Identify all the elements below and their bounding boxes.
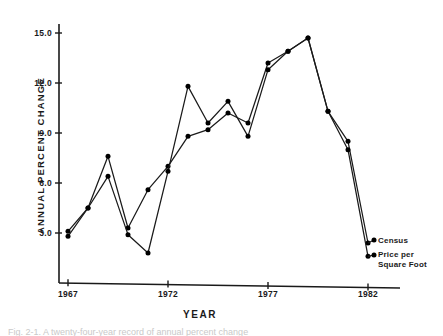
data-point-marker: Census 1974: 9.2 <box>206 127 211 132</box>
data-point-marker: Price per Square Foot 1976: 8.8 <box>246 134 251 139</box>
legend-marker <box>372 238 377 243</box>
legend-price-line-1: Price per <box>378 250 427 260</box>
data-point-marker: Census 1981: 8.5 <box>346 139 351 144</box>
series-line <box>68 38 368 256</box>
data-point-marker: Price per Square Foot 1970: 2.9 <box>126 232 131 237</box>
data-point-marker: Price per Square Foot 1978: 13.9 <box>286 49 291 54</box>
data-point-marker: Census 1973: 8.8 <box>186 134 191 139</box>
data-point-marker: Census 1969: 7.6 <box>106 154 111 159</box>
data-series-layer: Census 1967: 3.1Census 1968: 4.5Census 1… <box>66 36 371 259</box>
x-tick-label: 1967 <box>38 289 98 299</box>
data-point-marker: Price per Square Foot 1972: 6.7 <box>166 169 171 174</box>
data-point-marker: Census 1975: 10.2 <box>226 111 231 116</box>
legend-price-line-2: Square Foot <box>378 260 427 270</box>
x-tick-label: 1972 <box>138 289 198 299</box>
series-price-per-square-foot: Price per Square Foot 1967: 2.8Price per… <box>66 36 371 259</box>
x-tick-label: 1977 <box>238 289 298 299</box>
data-point-marker: Price per Square Foot 1977: 12.8 <box>266 67 271 72</box>
legend-marker <box>372 253 377 258</box>
y-axis-title: ANNUAL PERCENT CHANGE <box>35 41 46 271</box>
data-point-marker: Price per Square Foot 1967: 2.8 <box>66 234 71 239</box>
data-point-marker: Price per Square Foot 1975: 10.9 <box>226 99 231 104</box>
data-point-marker: Price per Square Foot 1971: 1.8 <box>146 251 151 256</box>
x-tick-label: 1982 <box>338 289 398 299</box>
data-point-marker: Price per Square Foot 1969: 6.4 <box>106 174 111 179</box>
data-point-marker: Price per Square Foot 1968: 4.5 <box>86 206 91 211</box>
series-census: Census 1967: 3.1Census 1968: 4.5Census 1… <box>66 36 371 246</box>
data-point-marker: Census 1977: 13.2 <box>266 61 271 66</box>
data-point-marker: Price per Square Foot 1979: 14.7 <box>306 36 311 41</box>
legend-label-price-per-square-foot: Price per Square Foot <box>378 250 427 270</box>
y-tick-label: 15.0 <box>0 28 52 38</box>
data-point-marker: Price per Square Foot 1981: 8 <box>346 147 351 152</box>
figure-container: Census 1967: 3.1Census 1968: 4.5Census 1… <box>0 0 443 336</box>
series-line <box>68 38 368 243</box>
data-point-marker: Price per Square Foot 1974: 9.6 <box>206 121 211 126</box>
legend-label-census: Census <box>378 236 408 246</box>
data-point-marker: Price per Square Foot 1973: 11.8 <box>186 84 191 89</box>
data-point-marker: Price per Square Foot 1980: 10.3 <box>326 109 331 114</box>
x-axis-title: YEAR <box>0 309 400 320</box>
data-point-marker: Census 1976: 9.6 <box>246 121 251 126</box>
line-chart-plot: Census 1967: 3.1Census 1968: 4.5Census 1… <box>0 0 443 336</box>
data-point-marker: Census 1971: 5.6 <box>146 187 151 192</box>
figure-caption-fragment: Fig. 2-1. A twenty-four-year record of a… <box>8 327 438 336</box>
x-axis-line <box>59 283 400 288</box>
